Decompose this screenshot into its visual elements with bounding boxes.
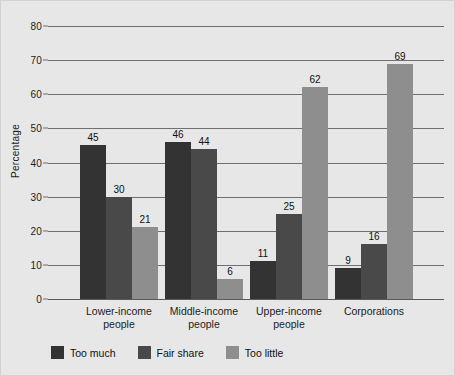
bar: 30 <box>106 197 132 299</box>
bar: 6 <box>217 279 243 299</box>
bar: 11 <box>250 261 276 299</box>
y-axis-tick-label: 70 <box>30 55 42 66</box>
category-label-line2: people <box>229 318 349 331</box>
y-axis-tick-label: 40 <box>30 157 42 168</box>
bar-value-label: 45 <box>87 132 98 143</box>
y-axis-tick-mark <box>43 230 48 231</box>
y-axis-tick-label: 60 <box>30 89 42 100</box>
bar-value-label: 11 <box>258 248 268 259</box>
y-axis-tick-label: 10 <box>30 259 42 270</box>
bar-value-label: 9 <box>345 255 351 266</box>
category-label-line1: Corporations <box>344 305 404 317</box>
bar-value-label: 21 <box>139 214 150 225</box>
legend-item: Fair share <box>138 346 204 359</box>
bar: 9 <box>335 268 361 299</box>
legend-swatch-icon <box>226 346 239 359</box>
x-axis-baseline <box>48 299 444 300</box>
legend-label: Fair share <box>157 347 204 359</box>
bar-group: 46446 <box>165 26 243 299</box>
bar-value-label: 6 <box>227 266 233 277</box>
plot-area: 010203040506070804530214644611256291669 <box>48 26 444 299</box>
y-axis-tick-mark <box>43 128 48 129</box>
legend-swatch-icon <box>138 346 151 359</box>
category-label-line1: Middle-income <box>170 305 238 317</box>
bar-group: 112562 <box>250 26 328 299</box>
legend-item: Too little <box>226 346 284 359</box>
bar-value-label: 16 <box>368 231 379 242</box>
y-axis-tick-mark <box>43 94 48 95</box>
y-axis-tick-mark <box>43 196 48 197</box>
y-axis-tick-label: 50 <box>30 123 42 134</box>
category-label-line1: Lower-income <box>86 305 152 317</box>
bar: 45 <box>80 145 106 299</box>
bar: 62 <box>302 87 328 299</box>
bar-value-label: 25 <box>283 201 294 212</box>
bar-group: 91669 <box>335 26 413 299</box>
bar-value-label: 44 <box>198 136 209 147</box>
legend-item: Too much <box>51 346 116 359</box>
bar: 44 <box>191 149 217 299</box>
y-axis-tick-label: 30 <box>30 191 42 202</box>
bar: 21 <box>132 227 158 299</box>
bar: 69 <box>387 64 413 299</box>
y-axis-tick-label: 80 <box>30 21 42 32</box>
y-axis-tick-label: 20 <box>30 225 42 236</box>
y-axis-tick-mark <box>43 162 48 163</box>
y-axis-title: Percentage <box>10 124 21 178</box>
legend-label: Too little <box>245 347 284 359</box>
y-axis-tick-mark <box>43 60 48 61</box>
x-axis-category-label: Corporations <box>314 305 434 318</box>
legend-label: Too much <box>70 347 116 359</box>
y-axis-tick-mark <box>43 26 48 27</box>
y-axis-tick-mark <box>43 299 48 300</box>
bar-value-label: 46 <box>172 129 183 140</box>
bar-group: 453021 <box>80 26 158 299</box>
bar-chart-figure: Percentage 01020304050607080453021464461… <box>0 0 455 376</box>
bar-value-label: 69 <box>394 51 405 62</box>
chart-legend: Too muchFair shareToo little <box>51 346 283 359</box>
bar-value-label: 62 <box>309 74 320 85</box>
y-axis-tick-mark <box>43 264 48 265</box>
bar: 25 <box>276 214 302 299</box>
bar: 16 <box>361 244 387 299</box>
y-axis-tick-label: 0 <box>36 294 42 305</box>
bar: 46 <box>165 142 191 299</box>
legend-swatch-icon <box>51 346 64 359</box>
category-label-line1: Upper-income <box>256 305 322 317</box>
bar-value-label: 30 <box>113 184 124 195</box>
